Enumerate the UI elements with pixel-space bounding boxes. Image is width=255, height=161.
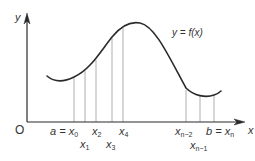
label-b-xn-sub: n (230, 131, 234, 138)
label-x1: x1 (80, 139, 89, 151)
origin-label: O (15, 124, 24, 136)
label-xn-2: xn−2 (175, 126, 192, 138)
label-x4-sub: 4 (125, 131, 129, 138)
label-x2: x2 (92, 126, 101, 138)
label-x4: x4 (119, 126, 128, 138)
label-xn-1: xn−1 (190, 140, 207, 152)
label-x3-sub: 3 (112, 144, 116, 151)
axes (24, 13, 245, 125)
label-a-x0: a = x0 (50, 126, 78, 138)
x-axis-label: x (248, 125, 254, 136)
label-xn-1-sub: n−1 (196, 145, 208, 152)
partition-lines (74, 26, 214, 122)
label-x1-sub: 1 (86, 144, 90, 151)
label-xn-2-sub: n−2 (181, 131, 193, 138)
label-b-xn: b = xn (206, 126, 234, 138)
label-x3: x3 (106, 139, 115, 151)
label-a-x0-sub: 0 (74, 131, 78, 138)
y-axis-label: y (15, 12, 21, 23)
label-x2-sub: 2 (98, 131, 102, 138)
label-a-x0-text: a = x (50, 125, 74, 137)
label-b-xn-text: b = x (206, 125, 230, 137)
curve-label: y = f(x) (172, 28, 203, 38)
